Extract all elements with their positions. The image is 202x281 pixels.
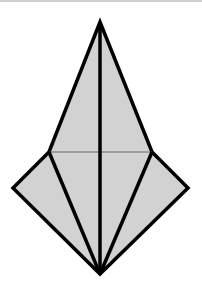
origami-diagram (0, 0, 202, 281)
